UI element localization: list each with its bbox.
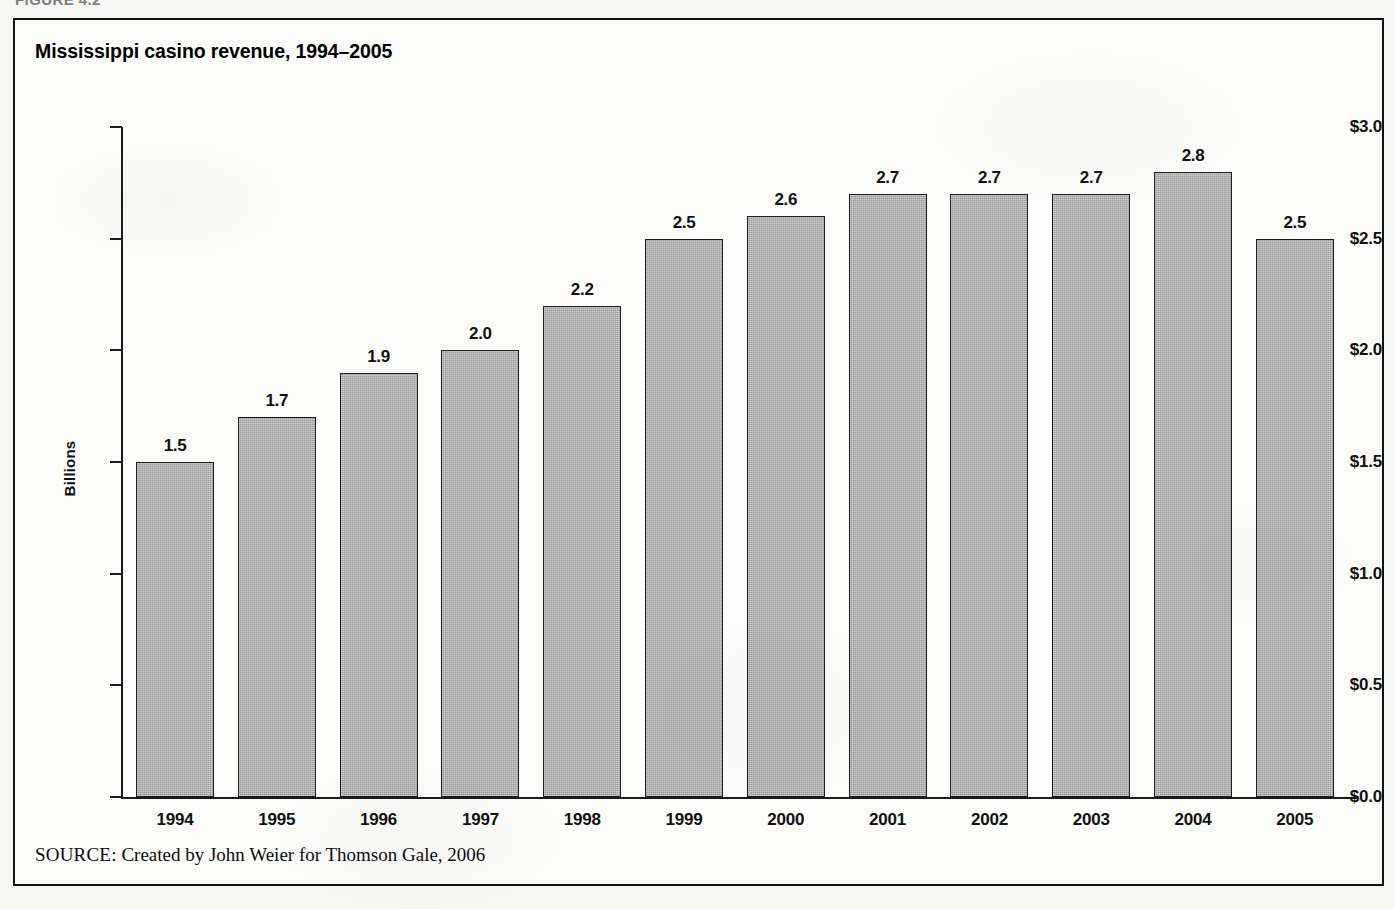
x-axis-tick-label: 1997 — [441, 810, 519, 830]
bar-2001[interactable] — [849, 194, 927, 797]
bar-group: 1.51994 — [136, 20, 214, 797]
bar-1996[interactable] — [340, 373, 418, 797]
figure-caption: FIGURE 4.2 — [15, 0, 101, 8]
bar-group: 2.51999 — [645, 20, 723, 797]
x-axis-tick-label: 2000 — [747, 810, 825, 830]
x-axis-tick-label: 2003 — [1052, 810, 1130, 830]
bar-group: 2.52005 — [1256, 20, 1334, 797]
bar-group: 2.72003 — [1052, 20, 1130, 797]
y-axis-tick — [110, 573, 122, 575]
bar-group: 2.01997 — [441, 20, 519, 797]
bar-value-label: 2.0 — [441, 324, 519, 344]
x-axis-tick-label: 1998 — [543, 810, 621, 830]
bar-group: 2.82004 — [1154, 20, 1232, 797]
x-axis-tick-label: 2001 — [849, 810, 927, 830]
x-axis-tick-label: 2002 — [950, 810, 1028, 830]
x-axis-tick-label: 2004 — [1154, 810, 1232, 830]
bar-value-label: 1.5 — [136, 436, 214, 456]
bar-1994[interactable] — [136, 462, 214, 797]
bar-2003[interactable] — [1052, 194, 1130, 797]
bar-1998[interactable] — [543, 306, 621, 797]
bar-2000[interactable] — [747, 216, 825, 797]
bar-group: 2.72001 — [849, 20, 927, 797]
bar-value-label: 1.9 — [340, 347, 418, 367]
y-axis-tick — [110, 349, 122, 351]
bar-1995[interactable] — [238, 417, 316, 797]
bar-value-label: 2.2 — [543, 280, 621, 300]
bar-value-label: 2.5 — [1256, 213, 1334, 233]
bar-value-label: 2.7 — [849, 168, 927, 188]
y-axis-tick — [110, 684, 122, 686]
y-axis-tick — [110, 126, 122, 128]
bar-value-label: 2.7 — [950, 168, 1028, 188]
bar-group: 1.91996 — [340, 20, 418, 797]
bar-value-label: 1.7 — [238, 391, 316, 411]
bar-value-label: 2.6 — [747, 190, 825, 210]
y-axis-line — [121, 127, 123, 799]
bar-2002[interactable] — [950, 194, 1028, 797]
bar-group: 2.72002 — [950, 20, 1028, 797]
bar-2005[interactable] — [1256, 239, 1334, 797]
bar-value-label: 2.8 — [1154, 146, 1232, 166]
bar-group: 1.71995 — [238, 20, 316, 797]
bar-value-label: 2.7 — [1052, 168, 1130, 188]
figure-frame: Mississippi casino revenue, 1994–2005 Bi… — [13, 18, 1384, 886]
x-axis-tick-label: 1996 — [340, 810, 418, 830]
y-axis-tick — [110, 238, 122, 240]
y-axis-tick — [110, 796, 122, 798]
x-axis-tick-label: 1995 — [238, 810, 316, 830]
bar-2004[interactable] — [1154, 172, 1232, 797]
bar-value-label: 2.5 — [645, 213, 723, 233]
y-axis-tick — [110, 461, 122, 463]
source-text: Created by John Weier for Thomson Gale, … — [117, 844, 486, 865]
x-axis-tick-label: 1999 — [645, 810, 723, 830]
x-axis-tick-label: 1994 — [136, 810, 214, 830]
x-axis-line — [121, 797, 1357, 799]
plot-area: Billions $3.0$2.5$2.0$1.5$1.0$0.5$0.0 1.… — [15, 20, 1382, 884]
bar-group: 2.62000 — [747, 20, 825, 797]
y-axis-title: Billions — [61, 409, 78, 529]
bar-1997[interactable] — [441, 350, 519, 797]
bar-group: 2.21998 — [543, 20, 621, 797]
bar-1999[interactable] — [645, 239, 723, 797]
x-axis-tick-label: 2005 — [1256, 810, 1334, 830]
source-label: SOURCE: — [35, 844, 117, 865]
source-note: SOURCE: Created by John Weier for Thomso… — [35, 844, 485, 866]
